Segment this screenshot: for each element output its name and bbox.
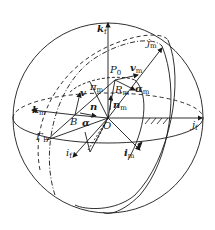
n-m-vector — [110, 96, 111, 110]
label-j-f: jf — [192, 120, 198, 130]
label-B: B — [70, 117, 77, 127]
i-m-wedge — [138, 142, 142, 150]
label-Gamma-B: ΓB — [36, 132, 48, 142]
label-j-m: jm — [147, 38, 157, 48]
label-O: O — [103, 121, 111, 131]
label-n: n — [90, 102, 97, 112]
label-v: v — [80, 88, 86, 98]
label-R-m: Rm — [115, 85, 129, 95]
label-alpha-m: αm — [135, 84, 149, 94]
label-k-m: km — [32, 105, 46, 115]
label-n-m: nm — [113, 100, 127, 110]
i-m-axis — [108, 118, 140, 150]
label-i-f: if — [66, 148, 72, 158]
label-i-m: im — [124, 148, 134, 158]
label-P0: P0 — [110, 65, 121, 75]
label-k-f: kf — [97, 24, 107, 34]
tilted-circle-back — [38, 35, 168, 170]
label-pi-m: πm — [90, 82, 103, 92]
ground-hatch — [145, 118, 168, 124]
label-alpha: α — [82, 118, 90, 128]
label-v-m: vm — [130, 63, 142, 73]
sphere-diagram — [0, 0, 215, 230]
